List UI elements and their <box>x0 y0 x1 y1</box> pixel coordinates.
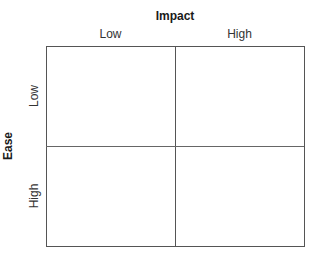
quadrant-low-ease-low-impact <box>47 47 176 147</box>
horizontal-divider <box>46 146 304 147</box>
x-axis-title: Impact <box>46 9 304 23</box>
row-label-high: High <box>27 184 41 209</box>
quadrant-low-ease-high-impact <box>176 47 304 147</box>
quadrant-high-ease-low-impact <box>47 147 176 246</box>
quadrant-high-ease-high-impact <box>176 147 304 246</box>
column-label-high: High <box>175 27 304 41</box>
column-label-low: Low <box>46 27 175 41</box>
row-label-low: Low <box>27 85 41 107</box>
y-axis-title: Ease <box>1 132 15 160</box>
